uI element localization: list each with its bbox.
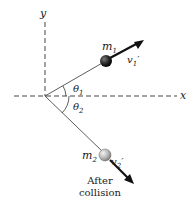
velocity-1-label: v1′ [127,55,139,68]
theta-1-label: θ1 [73,84,84,97]
mass-1-label: m1 [102,41,117,55]
theta-2-label: θ2 [73,102,84,115]
theta1-arc [63,86,66,96]
caption-line-1: After [70,175,130,187]
arrowhead-1 [134,40,144,49]
mass-2-label: m2 [82,150,97,164]
caption: After collision [70,175,130,199]
velocity-2-label: v2′ [111,157,123,170]
particle-m1 [100,55,112,67]
caption-line-2: collision [70,187,130,199]
x-axis-label: x [180,90,186,101]
particle-m2 [99,149,111,161]
y-axis-label: y [40,8,46,19]
theta2-arc [62,96,69,113]
